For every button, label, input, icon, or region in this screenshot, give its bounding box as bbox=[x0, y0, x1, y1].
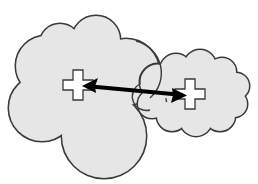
cluster-a bbox=[9, 16, 159, 178]
cluster-distance-diagram: Two overlapping cloud-shaped clusters, e… bbox=[0, 0, 258, 184]
diagram-canvas bbox=[0, 0, 258, 184]
